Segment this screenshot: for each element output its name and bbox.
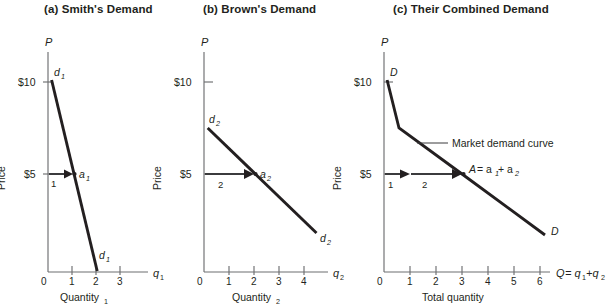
panel-b-curve-label-top-letter: d <box>209 113 216 125</box>
panel-browns-demand: (b) Brown's Demand $10 $5 0 1 2 3 4 <box>180 0 370 307</box>
panel-b-curve-label-bottom-letter: d <box>320 232 327 244</box>
panel-b-x-axis-label-sub: 2 <box>276 297 280 306</box>
panel-c-plot: $10 $5 0 1 2 3 4 5 6 P Q = q 1 +q 2 Pric… <box>370 0 615 307</box>
panel-b-point-a2-dot <box>253 172 257 176</box>
panel-b-x-axis-symbol-sub: 2 <box>340 273 344 282</box>
demand-curve-figure: (a) Smith's Demand $10 $5 0 1 2 3 <box>0 0 615 307</box>
panel-c-x-axis-symbol-sub2: 2 <box>601 273 605 282</box>
panel-a-point-label-sub: 1 <box>86 174 90 183</box>
panel-a-xtick-label-1: 1 <box>69 276 75 287</box>
panel-c-y-axis-symbol: P <box>381 36 389 48</box>
panel-a-x-axis-label: Quantity 1 <box>60 291 108 306</box>
panel-c-xtick-label-6: 6 <box>537 276 543 287</box>
panel-a-y-axis-symbol: P <box>45 36 53 48</box>
panel-a-curve-label-top-sub: 1 <box>61 72 65 81</box>
panel-c-xtick-label-1: 1 <box>407 276 413 287</box>
panel-c-arrow-label-2: 2 <box>422 179 427 190</box>
panel-c-point-label-plus: + a <box>498 163 513 175</box>
panel-a-plot: $10 $5 0 1 2 3 P q 1 Price Quantity 1 d … <box>0 0 180 307</box>
panel-a-point-label: a 1 <box>79 168 90 183</box>
panel-a-curve-label-bottom: d 1 <box>99 249 110 264</box>
panel-b-origin-label: 0 <box>197 276 203 287</box>
panel-a-x-axis-label-text: Quantity <box>60 291 100 303</box>
panel-a-curve-label-top: d 1 <box>54 66 65 81</box>
panel-c-annotation: Market demand curve <box>452 137 554 149</box>
panel-b-point-label-letter: a <box>260 168 266 180</box>
panel-c-curve-label-bottom: D <box>551 225 559 237</box>
panel-c-point-A-dot <box>461 172 465 176</box>
panel-b-demand-curve <box>208 128 317 233</box>
panel-b-xtick-label-1: 1 <box>226 276 232 287</box>
panel-b-xtick-label-4: 4 <box>301 276 307 287</box>
panel-b-xtick-label-2: 2 <box>251 276 257 287</box>
panel-a-ytick-label-5: $5 <box>24 168 36 180</box>
panel-b-x-axis-label-text: Quantity <box>232 291 272 303</box>
panel-smiths-demand: (a) Smith's Demand $10 $5 0 1 2 3 <box>0 0 180 307</box>
panel-c-point-label-sub2: 2 <box>514 169 519 178</box>
panel-a-x-axis-symbol-sub: 1 <box>160 273 164 282</box>
panel-b-x-axis-label: Quantity 2 <box>232 291 280 306</box>
panel-b-curve-label-top-sub: 2 <box>215 119 220 128</box>
panel-c-xtick-label-3: 3 <box>459 276 465 287</box>
panel-b-curve-label-top: d 2 <box>209 113 220 128</box>
panel-c-ytick-label-5: $5 <box>360 168 372 180</box>
panel-a-point-label-letter: a <box>79 168 85 180</box>
panel-b-ytick-label-5: $5 <box>180 168 192 180</box>
panel-a-xtick-label-3: 3 <box>117 276 123 287</box>
panel-c-x-axis-symbol-plus: +q <box>586 267 599 279</box>
panel-a-origin-label: 0 <box>41 276 47 287</box>
panel-a-x-axis-symbol-letter: q <box>153 267 160 279</box>
panel-b-y-axis-symbol: P <box>201 36 209 48</box>
panel-b-plot: $10 $5 0 1 2 3 4 P q 2 Price Quantity 2 … <box>180 0 370 307</box>
panel-c-origin-label: 0 <box>377 276 383 287</box>
panel-b-arrow-label: 2 <box>218 179 223 190</box>
panel-c-xtick-label-4: 4 <box>485 276 491 287</box>
panel-c-xtick-label-2: 2 <box>433 276 439 287</box>
panel-b-curve-label-bottom: d 2 <box>320 232 331 247</box>
panel-b-x-axis-symbol: q 2 <box>333 267 344 282</box>
panel-c-x-axis-symbol: Q = q 1 +q 2 <box>556 267 605 282</box>
panel-a-arrow-label: 1 <box>51 178 56 189</box>
panel-a-curve-label-top-letter: d <box>54 66 61 78</box>
panel-a-curve-label-bottom-sub: 1 <box>106 255 110 264</box>
panel-a-point-a1-dot <box>72 172 76 176</box>
panel-a-ytick-label-10: $10 <box>18 76 36 88</box>
panel-combined-demand: (c) Their Combined Demand $10 <box>370 0 615 307</box>
panel-c-arrow1-head <box>400 170 410 179</box>
panel-b-ytick-label-10: $10 <box>174 76 192 88</box>
panel-a-xtick-label-2: 2 <box>93 276 99 287</box>
panel-c-y-axis-label: Price <box>331 166 343 190</box>
panel-c-ytick-label-10: $10 <box>354 76 372 88</box>
panel-a-y-axis-label: Price <box>0 166 7 190</box>
panel-a-x-axis-symbol: q 1 <box>153 267 164 282</box>
panel-c-market-demand-curve <box>387 80 545 235</box>
panel-c-point-label-letter: A <box>468 163 476 175</box>
panel-c-arrow-label-1: 1 <box>388 179 393 190</box>
panel-c-x-axis-label: Total quantity <box>422 291 485 303</box>
panel-b-point-label-sub: 2 <box>266 174 271 183</box>
panel-b-y-axis-label: Price <box>151 166 163 190</box>
panel-b-xtick-label-3: 3 <box>276 276 282 287</box>
panel-a-arrow-head <box>64 170 73 179</box>
panel-c-x-axis-symbol-letter: Q <box>556 267 565 279</box>
panel-a-x-axis-label-sub: 1 <box>104 297 108 306</box>
panel-b-curve-label-bottom-sub: 2 <box>326 238 331 247</box>
panel-b-x-axis-symbol-letter: q <box>333 267 340 279</box>
panel-c-xtick-label-5: 5 <box>511 276 517 287</box>
panel-c-point-label: A = a 1 + a 2 <box>468 163 519 178</box>
panel-c-point-label-equals: = a <box>477 163 492 175</box>
panel-a-curve-label-bottom-letter: d <box>99 249 106 261</box>
panel-c-x-axis-symbol-equals: = q <box>565 267 581 279</box>
panel-c-curve-label-top: D <box>390 66 398 78</box>
